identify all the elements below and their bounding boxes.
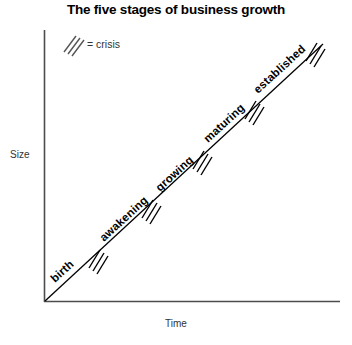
business-growth-diagram: birth awakening growing maturing establi… — [0, 0, 352, 345]
legend-label: = crisis — [87, 38, 120, 50]
stage-label-maturing: maturing — [201, 101, 247, 144]
stage-label-growing: growing — [153, 153, 195, 193]
stage-label-awakening: awakening — [97, 194, 150, 244]
x-axis-label: Time — [0, 318, 352, 329]
stage-label-established: established — [251, 42, 307, 95]
crisis-mark-3 — [193, 151, 212, 175]
crisis-mark-4 — [245, 101, 264, 125]
crisis-mark-1 — [89, 250, 108, 274]
crisis-hatch-icon — [64, 36, 84, 56]
y-axis-label: Size — [10, 149, 29, 160]
stage-label-birth: birth — [48, 258, 76, 285]
crisis-mark-5 — [306, 43, 325, 67]
